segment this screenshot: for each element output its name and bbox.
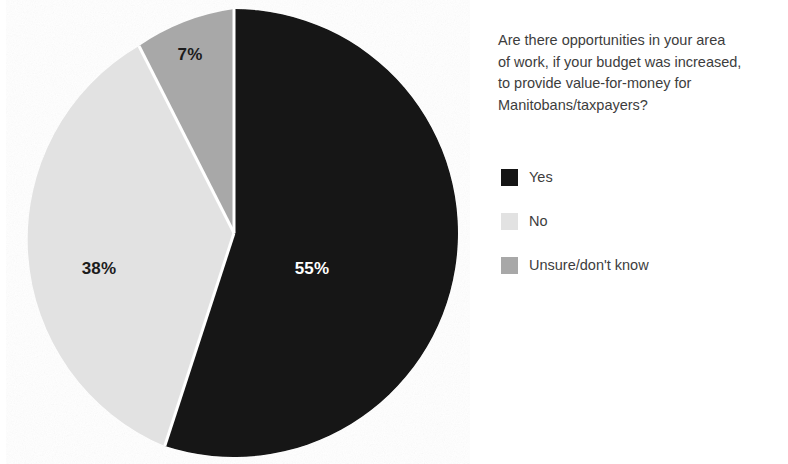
pie-label-yes: 55%	[295, 259, 330, 278]
legend-swatch-unsure	[501, 257, 518, 274]
pie-chart-figure: 55% 38% 7% Are there opportunities in yo…	[0, 0, 788, 464]
legend-swatch-yes	[501, 169, 518, 186]
pie-label-unsure: 7%	[178, 45, 203, 64]
legend-label-no: No	[529, 213, 548, 230]
legend-item-unsure[interactable]: Unsure/don't know	[501, 256, 781, 274]
pie-svg: 55% 38% 7%	[0, 0, 470, 464]
legend-panel: Are there opportunities in your area of …	[498, 30, 784, 116]
legend-item-no[interactable]: No	[501, 212, 781, 230]
legend-label-unsure: Unsure/don't know	[529, 257, 649, 274]
legend-list: Yes No Unsure/don't know	[501, 168, 781, 300]
legend-label-yes: Yes	[529, 169, 553, 186]
chart-question-title: Are there opportunities in your area of …	[498, 30, 784, 116]
pie-label-no: 38%	[82, 259, 117, 278]
pie-chart-plot: 55% 38% 7%	[0, 0, 470, 464]
legend-item-yes[interactable]: Yes	[501, 168, 781, 186]
legend-swatch-no	[501, 213, 518, 230]
